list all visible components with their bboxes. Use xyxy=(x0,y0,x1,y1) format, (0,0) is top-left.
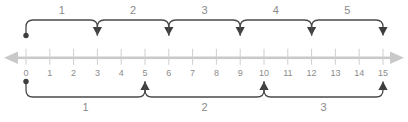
axis-right-arrow-icon xyxy=(390,52,404,64)
tick-label: 13 xyxy=(330,68,340,78)
tick-label: 6 xyxy=(166,68,171,78)
axis-tick-labels: 0123456789101112131415 xyxy=(23,68,388,78)
jump-arc-path xyxy=(26,20,97,36)
jump-arc: 1 xyxy=(23,79,149,113)
jump-arc: 2 xyxy=(145,82,269,114)
jumps-below-group: 123 xyxy=(23,79,387,113)
jump-arc-path xyxy=(26,82,145,98)
jump-label: 1 xyxy=(59,4,65,16)
axis-left-arrow-icon xyxy=(4,52,18,64)
tick-label: 10 xyxy=(259,68,269,78)
tick-label: 3 xyxy=(95,68,100,78)
jump-arc-path xyxy=(240,20,311,36)
jump-arc-path xyxy=(169,20,240,36)
tick-label: 14 xyxy=(354,68,364,78)
jump-arc-path xyxy=(312,20,383,36)
jump-label: 5 xyxy=(344,4,350,16)
jump-arrow-icon xyxy=(378,27,387,36)
jump-label: 1 xyxy=(82,101,88,113)
jump-arc: 4 xyxy=(240,4,316,36)
jump-arc: 1 xyxy=(23,4,102,38)
jump-start-dot xyxy=(23,33,28,38)
jump-arc-path xyxy=(97,20,168,36)
jump-label: 3 xyxy=(320,101,326,113)
jump-label: 3 xyxy=(201,4,207,16)
jump-arrow-icon xyxy=(378,82,387,91)
jump-arc-path xyxy=(145,82,264,98)
tick-label: 12 xyxy=(307,68,317,78)
tick-label: 5 xyxy=(142,68,147,78)
tick-label: 11 xyxy=(283,68,292,78)
jump-arc: 3 xyxy=(264,82,388,114)
jump-label: 2 xyxy=(201,101,207,113)
tick-label: 4 xyxy=(119,68,124,78)
jump-arc: 3 xyxy=(169,4,245,36)
jump-arc: 2 xyxy=(97,4,173,36)
tick-label: 8 xyxy=(214,68,219,78)
jump-start-dot xyxy=(23,79,28,84)
number-line-canvas: 0123456789101112131415 12345 123 xyxy=(0,0,408,122)
tick-label: 9 xyxy=(238,68,243,78)
tick-label: 15 xyxy=(378,68,388,78)
jump-arc-path xyxy=(264,82,383,98)
number-line-figure: 0123456789101112131415 12345 123 xyxy=(0,0,408,122)
tick-label: 1 xyxy=(47,68,52,78)
jump-label: 2 xyxy=(130,4,136,16)
jump-arc: 5 xyxy=(312,4,388,36)
jump-label: 4 xyxy=(273,4,279,16)
tick-label: 0 xyxy=(23,68,28,78)
jumps-above-group: 12345 xyxy=(23,4,387,38)
axis-line xyxy=(14,57,394,60)
tick-label: 7 xyxy=(190,68,195,78)
tick-label: 2 xyxy=(71,68,76,78)
axis-group: 0123456789101112131415 xyxy=(4,49,404,78)
